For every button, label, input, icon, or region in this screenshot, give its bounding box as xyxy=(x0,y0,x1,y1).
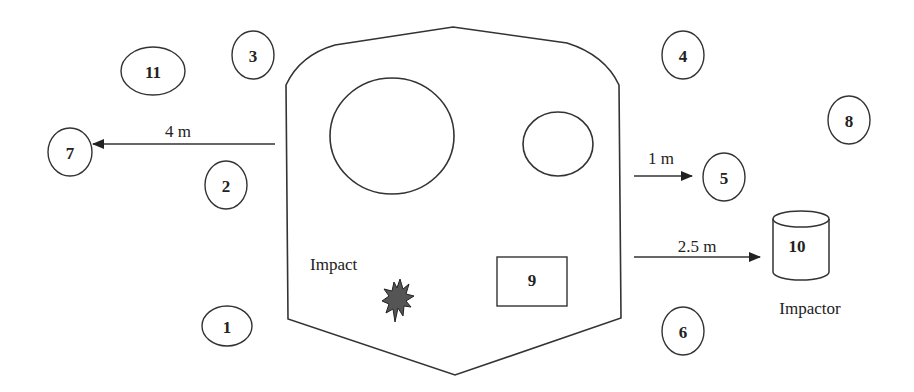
marker-10-label: 10 xyxy=(789,237,806,256)
arrow-1m-label: 1 m xyxy=(648,149,674,168)
marker-7: 7 xyxy=(48,128,92,176)
arrow-2-5m-label: 2.5 m xyxy=(678,237,717,256)
svg-text:11: 11 xyxy=(145,63,161,82)
marker-3: 3 xyxy=(232,31,274,79)
test-layout-diagram: 9 Impact 4 m 1 m 2.5 m 10 Impactor 11 3 … xyxy=(0,0,914,392)
marker-9-label: 9 xyxy=(528,271,537,290)
impact-label: Impact xyxy=(310,255,357,274)
svg-text:3: 3 xyxy=(249,47,258,66)
svg-text:1: 1 xyxy=(223,318,232,337)
marker-4: 4 xyxy=(662,31,704,79)
arrow-4m-label: 4 m xyxy=(165,122,191,141)
svg-text:4: 4 xyxy=(679,47,688,66)
impact-star-icon xyxy=(382,279,414,322)
marker-5: 5 xyxy=(703,153,745,201)
marker-2: 2 xyxy=(205,161,247,209)
impactor-label: Impactor xyxy=(779,299,841,318)
marker-1: 1 xyxy=(202,306,252,346)
svg-text:2: 2 xyxy=(222,177,231,196)
svg-text:6: 6 xyxy=(679,323,688,342)
marker-8: 8 xyxy=(828,96,870,144)
svg-text:8: 8 xyxy=(845,112,854,131)
vehicle-outline xyxy=(286,27,621,375)
svg-text:7: 7 xyxy=(66,144,75,163)
small-circle xyxy=(523,112,593,176)
marker-11: 11 xyxy=(121,47,185,95)
large-circle xyxy=(330,78,454,194)
svg-text:5: 5 xyxy=(720,169,729,188)
marker-6: 6 xyxy=(662,307,704,355)
